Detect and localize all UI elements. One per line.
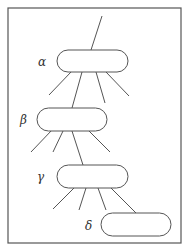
node-alpha: α bbox=[38, 50, 128, 72]
edge-from-alpha bbox=[96, 72, 105, 103]
edge-from-beta bbox=[88, 130, 110, 152]
node-beta: β bbox=[19, 108, 107, 131]
edge-from-alpha bbox=[49, 72, 71, 95]
edge-from-beta bbox=[53, 131, 63, 152]
edge-from-alpha bbox=[106, 72, 129, 96]
edge-from-gamma bbox=[110, 187, 136, 213]
node-label-delta: δ bbox=[85, 219, 92, 233]
edge-from-gamma bbox=[98, 188, 106, 210]
node-gamma: γ bbox=[37, 165, 128, 188]
edge-from-alpha bbox=[72, 72, 82, 108]
edge-from-beta bbox=[31, 130, 52, 152]
tree-diagram: αβγδ bbox=[0, 0, 187, 251]
node-label-alpha: α bbox=[38, 55, 46, 69]
nodes-group: αβγδ bbox=[19, 50, 171, 236]
node-pill-gamma bbox=[57, 165, 128, 188]
edge-from-root bbox=[91, 16, 102, 50]
node-pill-beta bbox=[37, 108, 107, 131]
node-label-gamma: γ bbox=[37, 170, 45, 184]
node-pill-alpha bbox=[57, 50, 128, 72]
edge-from-gamma bbox=[79, 188, 86, 210]
node-label-beta: β bbox=[19, 113, 27, 127]
edge-from-beta bbox=[72, 131, 83, 165]
node-pill-delta bbox=[101, 213, 171, 236]
node-delta: δ bbox=[85, 213, 171, 236]
edge-from-gamma bbox=[53, 187, 75, 209]
